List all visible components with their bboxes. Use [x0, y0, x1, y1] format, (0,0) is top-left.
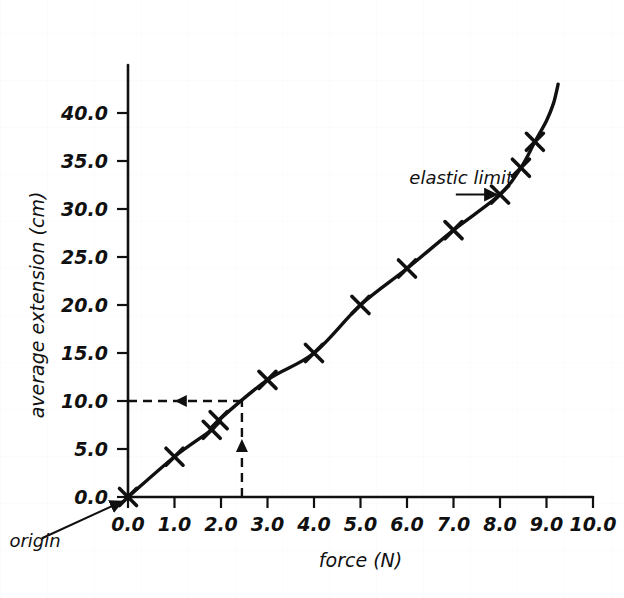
data-point-marker: [166, 448, 183, 465]
chart-canvas: 0.01.02.03.04.05.06.07.08.09.010.00.05.0…: [0, 0, 624, 598]
x-tick-label-7.0: 7.0: [437, 513, 471, 535]
x-tick-label-0.0: 0.0: [111, 513, 145, 535]
construction-arrow-up-icon: [236, 439, 248, 452]
y-tick-label-30.0: 30.0: [61, 198, 108, 220]
x-tick-label-6.0: 6.0: [390, 513, 424, 535]
data-point-marker: [445, 222, 462, 239]
data-curve: [128, 84, 558, 497]
x-tick-label-1.0: 1.0: [158, 513, 192, 535]
data-point-marker: [512, 159, 529, 176]
y-tick-label-25.0: 25.0: [61, 246, 108, 268]
y-tick-label-10.0: 10.0: [61, 390, 108, 412]
y-tick-label-20.0: 20.0: [61, 294, 108, 316]
y-tick-label-15.0: 15.0: [61, 342, 108, 364]
data-point-marker: [399, 260, 416, 277]
x-tick-label-4.0: 4.0: [296, 513, 331, 535]
y-tick-label-40.0: 40.0: [60, 102, 108, 124]
annotation-label-elastic-limit: elastic limit: [409, 167, 514, 188]
y-tick-label-35.0: 35.0: [61, 150, 108, 172]
data-point-marker: [203, 421, 220, 438]
data-point-marker: [352, 297, 369, 314]
x-tick-label-9.0: 9.0: [530, 513, 564, 535]
construction-arrow-left-icon: [175, 395, 187, 407]
data-point-marker: [210, 412, 227, 429]
y-tick-label-5.0: 5.0: [74, 438, 108, 460]
x-tick-label-8.0: 8.0: [483, 513, 517, 535]
y-axis-title: average extension (cm): [26, 192, 48, 419]
x-axis-title: force (N): [319, 549, 402, 571]
data-point-marker: [306, 345, 323, 362]
x-tick-label-2.0: 2.0: [204, 513, 238, 535]
x-tick-label-5.0: 5.0: [344, 513, 378, 535]
data-point-marker: [259, 371, 276, 388]
y-tick-label-0.0: 0.0: [74, 486, 108, 508]
data-point-marker: [526, 133, 543, 150]
x-tick-label-3.0: 3.0: [251, 513, 285, 535]
force-extension-graph: 0.01.02.03.04.05.06.07.08.09.010.00.05.0…: [0, 0, 624, 598]
x-tick-label-10.0: 10.0: [570, 513, 617, 535]
